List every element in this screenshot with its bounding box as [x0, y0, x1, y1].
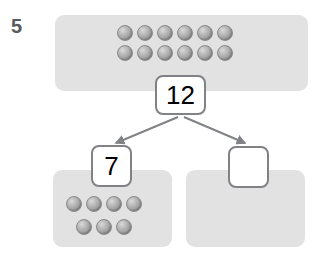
- arrow-whole-to-part-left: [116, 117, 178, 143]
- counter-icon: [157, 25, 173, 41]
- counter-icon: [66, 196, 82, 212]
- worksheet-number-bond: 5: [0, 0, 328, 259]
- counter-icon: [117, 45, 133, 61]
- counter-icon: [217, 25, 233, 41]
- counter-icon: [117, 25, 133, 41]
- counter-icon: [96, 219, 112, 235]
- counter-icon: [106, 196, 122, 212]
- counter-icon: [197, 25, 213, 41]
- arrow-whole-to-part-right: [184, 117, 245, 143]
- part-number-box-right[interactable]: [228, 146, 269, 188]
- counter-icon: [137, 45, 153, 61]
- counter-icon: [177, 45, 193, 61]
- counter-icon: [177, 25, 193, 41]
- counter-row: [76, 219, 132, 235]
- counter-icon: [157, 45, 173, 61]
- whole-number-box[interactable]: 12: [155, 75, 206, 115]
- counter-row: [117, 25, 233, 41]
- part-number-box-left[interactable]: 7: [91, 145, 132, 187]
- question-number: 5: [11, 16, 22, 36]
- counter-icon: [126, 196, 142, 212]
- counter-icon: [116, 219, 132, 235]
- counter-icon: [86, 196, 102, 212]
- counter-row: [66, 196, 142, 212]
- counter-icon: [217, 45, 233, 61]
- counter-row: [117, 45, 233, 61]
- counter-icon: [137, 25, 153, 41]
- counter-icon: [76, 219, 92, 235]
- counter-icon: [197, 45, 213, 61]
